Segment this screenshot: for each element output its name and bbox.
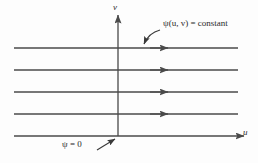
v-axis-label: v — [113, 2, 117, 12]
streamline-label: ψ(u, v) = constant — [163, 18, 228, 28]
zero-streamline-label: ψ = 0 — [62, 139, 82, 149]
figure-canvas: ψ(u, v) = constant ψ = 0 v u — [0, 0, 258, 163]
streamline-group — [14, 48, 238, 114]
streamline-label-leader — [144, 30, 160, 44]
zero-label-leader — [97, 139, 115, 150]
u-axis-label: u — [243, 127, 248, 137]
